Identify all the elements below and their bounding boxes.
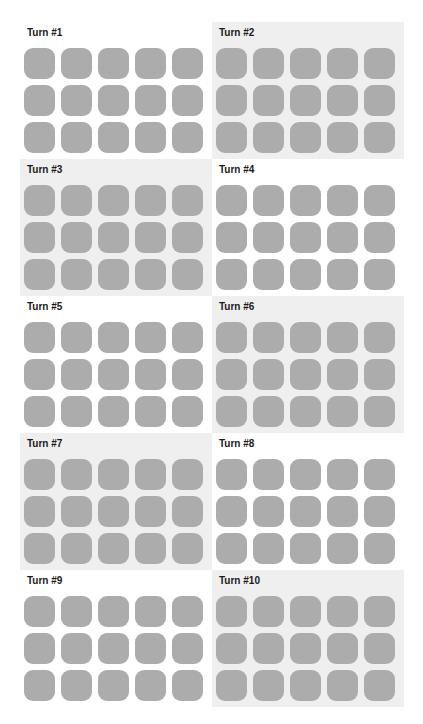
tile[interactable] xyxy=(135,596,166,627)
tile[interactable] xyxy=(172,396,203,427)
tile[interactable] xyxy=(327,670,358,701)
tile[interactable] xyxy=(135,259,166,290)
tile[interactable] xyxy=(327,322,358,353)
tile[interactable] xyxy=(172,359,203,390)
tile[interactable] xyxy=(216,459,247,490)
tile[interactable] xyxy=(172,222,203,253)
tile[interactable] xyxy=(364,459,395,490)
tile[interactable] xyxy=(216,48,247,79)
tile[interactable] xyxy=(216,633,247,664)
tile[interactable] xyxy=(364,48,395,79)
tile[interactable] xyxy=(98,670,129,701)
tile[interactable] xyxy=(135,496,166,527)
tile[interactable] xyxy=(327,122,358,153)
tile[interactable] xyxy=(253,459,284,490)
tile[interactable] xyxy=(290,396,321,427)
tile[interactable] xyxy=(172,48,203,79)
tile[interactable] xyxy=(216,596,247,627)
tile[interactable] xyxy=(364,596,395,627)
tile[interactable] xyxy=(24,596,55,627)
tile[interactable] xyxy=(135,85,166,116)
tile[interactable] xyxy=(290,496,321,527)
tile[interactable] xyxy=(216,322,247,353)
tile[interactable] xyxy=(253,122,284,153)
tile[interactable] xyxy=(172,322,203,353)
tile[interactable] xyxy=(364,322,395,353)
tile[interactable] xyxy=(290,222,321,253)
tile[interactable] xyxy=(98,359,129,390)
tile[interactable] xyxy=(135,122,166,153)
tile[interactable] xyxy=(216,222,247,253)
tile[interactable] xyxy=(253,185,284,216)
tile[interactable] xyxy=(364,396,395,427)
tile[interactable] xyxy=(364,633,395,664)
tile[interactable] xyxy=(135,222,166,253)
tile[interactable] xyxy=(253,222,284,253)
tile[interactable] xyxy=(135,322,166,353)
tile[interactable] xyxy=(364,122,395,153)
tile[interactable] xyxy=(24,222,55,253)
tile[interactable] xyxy=(290,459,321,490)
tile[interactable] xyxy=(98,396,129,427)
tile[interactable] xyxy=(327,633,358,664)
tile[interactable] xyxy=(172,533,203,564)
tile[interactable] xyxy=(327,85,358,116)
tile[interactable] xyxy=(327,496,358,527)
tile[interactable] xyxy=(172,496,203,527)
tile[interactable] xyxy=(24,48,55,79)
tile[interactable] xyxy=(98,496,129,527)
tile[interactable] xyxy=(253,48,284,79)
tile[interactable] xyxy=(24,185,55,216)
tile[interactable] xyxy=(364,185,395,216)
tile[interactable] xyxy=(135,633,166,664)
tile[interactable] xyxy=(61,222,92,253)
tile[interactable] xyxy=(61,533,92,564)
tile[interactable] xyxy=(61,322,92,353)
tile[interactable] xyxy=(24,396,55,427)
tile[interactable] xyxy=(135,359,166,390)
tile[interactable] xyxy=(61,185,92,216)
tile[interactable] xyxy=(253,85,284,116)
tile[interactable] xyxy=(253,322,284,353)
tile[interactable] xyxy=(61,122,92,153)
tile[interactable] xyxy=(98,185,129,216)
tile[interactable] xyxy=(253,259,284,290)
tile[interactable] xyxy=(61,259,92,290)
tile[interactable] xyxy=(24,359,55,390)
tile[interactable] xyxy=(364,533,395,564)
tile[interactable] xyxy=(172,185,203,216)
tile[interactable] xyxy=(216,122,247,153)
tile[interactable] xyxy=(216,359,247,390)
tile[interactable] xyxy=(364,259,395,290)
tile[interactable] xyxy=(364,670,395,701)
tile[interactable] xyxy=(24,670,55,701)
tile[interactable] xyxy=(135,459,166,490)
tile[interactable] xyxy=(61,359,92,390)
tile[interactable] xyxy=(172,670,203,701)
tile[interactable] xyxy=(290,85,321,116)
tile[interactable] xyxy=(172,122,203,153)
tile[interactable] xyxy=(61,496,92,527)
tile[interactable] xyxy=(172,459,203,490)
tile[interactable] xyxy=(216,185,247,216)
tile[interactable] xyxy=(98,322,129,353)
tile[interactable] xyxy=(216,670,247,701)
tile[interactable] xyxy=(327,459,358,490)
tile[interactable] xyxy=(24,496,55,527)
tile[interactable] xyxy=(290,670,321,701)
tile[interactable] xyxy=(253,496,284,527)
tile[interactable] xyxy=(253,633,284,664)
tile[interactable] xyxy=(172,596,203,627)
tile[interactable] xyxy=(98,459,129,490)
tile[interactable] xyxy=(61,459,92,490)
tile[interactable] xyxy=(253,596,284,627)
tile[interactable] xyxy=(24,259,55,290)
tile[interactable] xyxy=(61,48,92,79)
tile[interactable] xyxy=(327,222,358,253)
tile[interactable] xyxy=(98,633,129,664)
tile[interactable] xyxy=(290,533,321,564)
tile[interactable] xyxy=(24,322,55,353)
tile[interactable] xyxy=(327,596,358,627)
tile[interactable] xyxy=(364,222,395,253)
tile[interactable] xyxy=(24,533,55,564)
